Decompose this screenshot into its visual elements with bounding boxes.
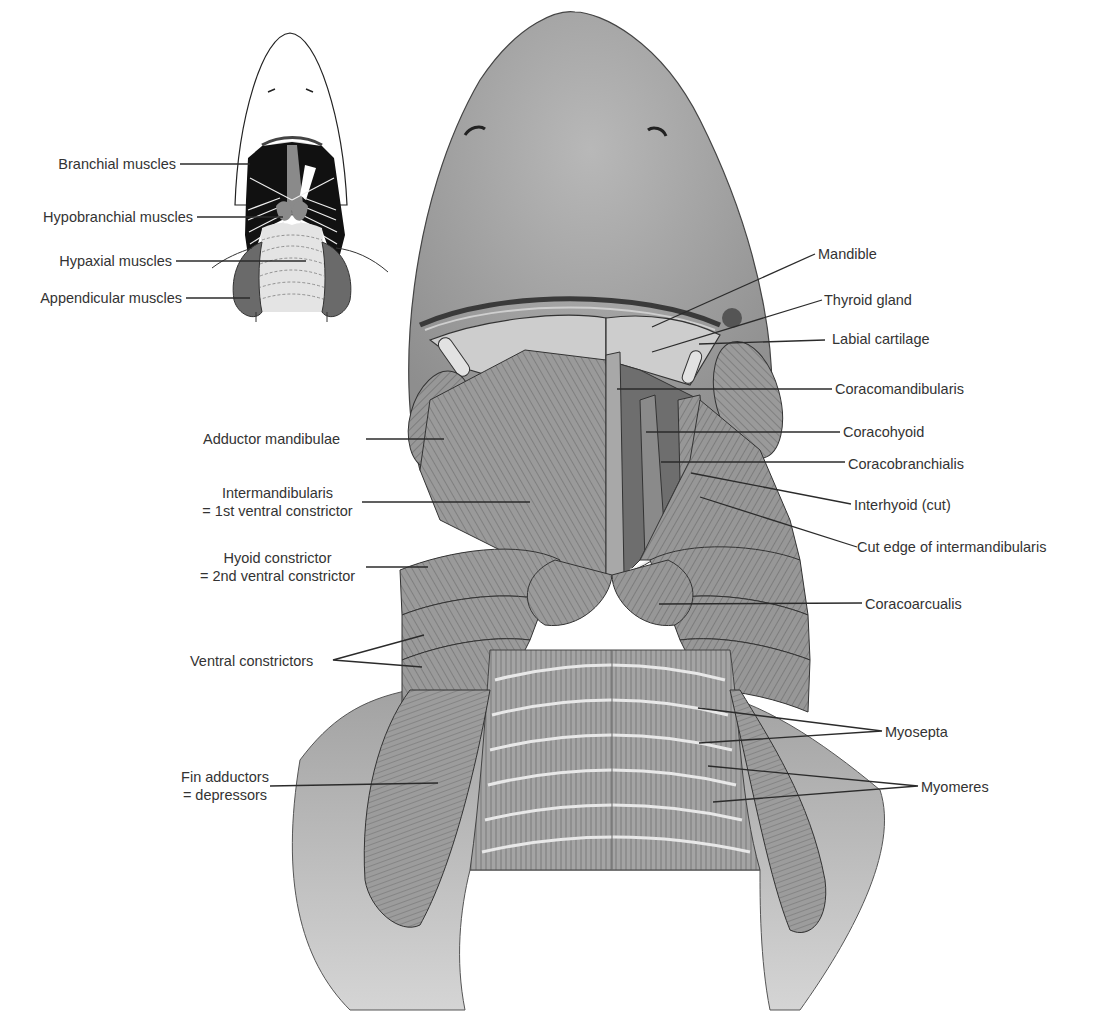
label-myomeres: Myomeres: [921, 778, 989, 796]
label-coracobranchialis: Coracobranchialis: [848, 455, 964, 473]
label-interhyoid-cut: Interhyoid (cut): [854, 496, 951, 514]
label-hypobranchial-muscles: Hypobranchial muscles: [10, 208, 193, 226]
label-hyoid-constrictor-line2: = 2nd ventral constrictor: [195, 567, 360, 585]
label-coracoarcualis: Coracoarcualis: [865, 595, 962, 613]
label-adductor-mandibulae: Adductor mandibulae: [203, 430, 340, 448]
label-intermandibularis-line1: Intermandibularis: [195, 484, 360, 502]
label-thyroid-gland: Thyroid gland: [824, 291, 912, 309]
label-myosepta: Myosepta: [885, 723, 948, 741]
label-mandible: Mandible: [818, 245, 877, 263]
label-hyoid-constrictor: Hyoid constrictor = 2nd ventral constric…: [195, 549, 360, 585]
label-intermandibularis: Intermandibularis = 1st ventral constric…: [195, 484, 360, 520]
label-appendicular-muscles: Appendicular muscles: [5, 289, 182, 307]
label-ventral-constrictors: Ventral constrictors: [190, 652, 313, 670]
label-labial-cartilage: Labial cartilage: [832, 330, 930, 348]
label-cut-edge-intermandibularis: Cut edge of intermandibularis: [857, 538, 1046, 556]
inset-schematic: [176, 33, 388, 322]
label-hyoid-constrictor-line1: Hyoid constrictor: [195, 549, 360, 567]
label-fin-adductors-line1: Fin adductors: [180, 768, 270, 786]
label-fin-adductors-line2: = depressors: [180, 786, 270, 804]
label-coracohyoid: Coracohyoid: [843, 423, 924, 441]
label-intermandibularis-line2: = 1st ventral constrictor: [195, 502, 360, 520]
label-coracomandibularis: Coracomandibularis: [835, 380, 964, 398]
main-shark-illustration: [292, 12, 884, 1010]
label-hypaxial-muscles: Hypaxial muscles: [20, 252, 172, 270]
label-fin-adductors: Fin adductors = depressors: [180, 768, 270, 804]
label-branchial-muscles: Branchial muscles: [20, 155, 176, 173]
